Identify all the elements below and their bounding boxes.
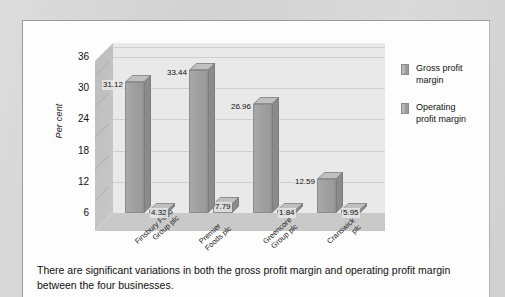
legend-label-line-2: profit margin (416, 114, 466, 126)
bar-chart: Per cent 61218243036 31.124.3233.447.792… (23, 21, 491, 259)
y-tick-24: 24 (63, 113, 89, 124)
gridline-36 (113, 57, 385, 58)
legend-label-line-1: Gross profit (416, 63, 463, 75)
bar-front-face (189, 70, 208, 213)
y-tick-18: 18 (63, 145, 89, 156)
legend-label: Gross profitmargin (416, 63, 463, 86)
bar-gross-0: 31.12 (125, 82, 144, 213)
bar-value-label: 4.32 (150, 208, 168, 218)
bar-front-face (317, 179, 336, 213)
bar-front-face (125, 82, 144, 213)
bar-front-face (253, 104, 272, 213)
legend-label: Operatingprofit margin (416, 102, 466, 125)
figure-card: Per cent 61218243036 31.124.3233.447.792… (22, 20, 490, 297)
figure-caption: There are significant variations in both… (23, 263, 491, 293)
legend-item-0: Gross profitmargin (401, 63, 493, 86)
plot-area: 31.124.3233.447.7926.961.8412.595.95 (95, 43, 385, 231)
gridline-30 (113, 88, 385, 89)
bar-side-face (208, 63, 215, 213)
legend-swatch-icon (401, 64, 409, 75)
bar-side-face (336, 172, 343, 213)
legend-label-line-2: margin (416, 75, 463, 87)
legend-item-1: Operatingprofit margin (401, 102, 493, 125)
bar-operating-3: 5.95 (341, 210, 360, 213)
chart-legend: Gross profitmarginOperatingprofit margin (401, 63, 493, 141)
bar-side-face (272, 97, 279, 213)
bar-value-label: 7.79 (214, 202, 232, 212)
legend-label-line-1: Operating (416, 102, 466, 114)
gridline-24 (113, 119, 385, 120)
caption-line-2: between the four businesses. (37, 278, 477, 293)
caption-line-1: There are significant variations in both… (37, 263, 477, 278)
y-tick-36: 36 (63, 51, 89, 62)
bar-value-label: 31.12 (102, 80, 124, 90)
legend-swatch-icon (401, 103, 409, 114)
bar-value-label: 1.84 (278, 208, 296, 218)
gridline-18 (113, 151, 385, 152)
bar-value-label: 26.96 (230, 102, 252, 112)
chart-back-wall (113, 43, 385, 213)
gridline-top (113, 47, 385, 48)
bar-value-label: 33.44 (166, 68, 188, 78)
bar-value-label: 12.59 (294, 177, 316, 187)
y-tick-12: 12 (63, 176, 89, 187)
bar-side-face (144, 75, 151, 213)
bar-operating-2: 1.84 (277, 210, 296, 213)
y-tick-30: 30 (63, 82, 89, 93)
bar-gross-3: 12.59 (317, 179, 336, 213)
bar-operating-0: 4.32 (149, 210, 168, 213)
bar-gross-2: 26.96 (253, 104, 272, 213)
bar-gross-1: 33.44 (189, 70, 208, 213)
bar-operating-1: 7.79 (213, 204, 232, 213)
bar-value-label: 5.95 (342, 208, 360, 218)
gridline-12 (113, 182, 385, 183)
y-tick-6: 6 (63, 207, 89, 218)
